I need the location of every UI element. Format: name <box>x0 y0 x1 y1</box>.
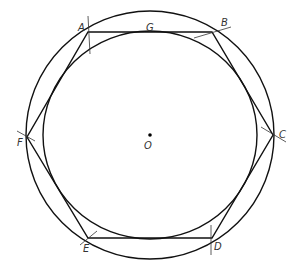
label-f: F <box>17 137 23 148</box>
label-e: E <box>83 243 90 254</box>
label-o: O <box>144 140 152 151</box>
label-a: A <box>77 22 85 33</box>
arc-mark-a <box>88 16 90 54</box>
diagram-canvas: A G B C F O E D <box>0 0 292 263</box>
label-c: C <box>279 129 286 140</box>
label-d: D <box>214 241 222 252</box>
label-g: G <box>146 22 154 33</box>
center-point <box>148 133 152 137</box>
label-b: B <box>221 17 228 28</box>
